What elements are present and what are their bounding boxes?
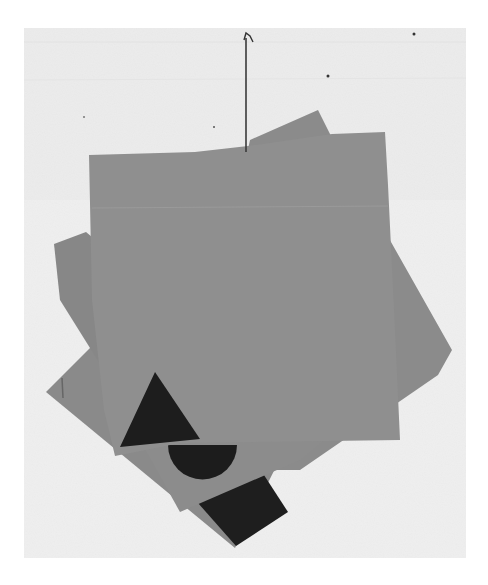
wall-speck — [327, 75, 330, 78]
wall-stain — [62, 378, 63, 398]
wall-speck — [83, 116, 85, 118]
wall-speck — [413, 33, 416, 36]
wall-speck — [213, 126, 215, 128]
photo — [0, 0, 488, 585]
sheet-front — [89, 132, 400, 456]
